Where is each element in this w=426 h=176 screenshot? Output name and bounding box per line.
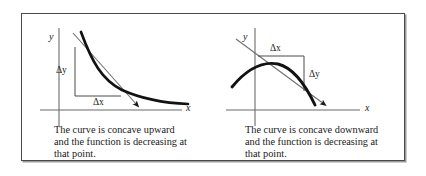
secant-line <box>73 33 137 105</box>
y-axis-label: y <box>243 32 247 42</box>
panel-concave-upward: y x Δy Δx The curve is concave upward an… <box>22 14 214 160</box>
delta-x-label: Δx <box>93 98 104 108</box>
x-axis-label: x <box>186 103 190 113</box>
curve-concave-upward <box>81 32 188 104</box>
figure-outer-frame: y x Δy Δx The curve is concave upward an… <box>21 13 405 161</box>
delta-y-label: Δy <box>309 70 320 80</box>
panel-caption: The curve is concave upward and the func… <box>54 124 214 159</box>
panel-caption: The curve is concave downward and the fu… <box>245 124 407 159</box>
delta-y-label: Δy <box>56 66 67 76</box>
y-axis-label: y <box>49 32 53 42</box>
figure-root: y x Δy Δx The curve is concave upward an… <box>0 0 426 176</box>
x-axis-label: x <box>365 103 369 113</box>
panel-concave-downward: y x Δx Δy The curve is concave downward … <box>212 14 404 160</box>
curve-concave-downward <box>232 63 315 105</box>
panel-left-graphic <box>22 14 214 110</box>
delta-x-label: Δx <box>270 44 281 54</box>
panel-right-graphic <box>212 14 404 110</box>
